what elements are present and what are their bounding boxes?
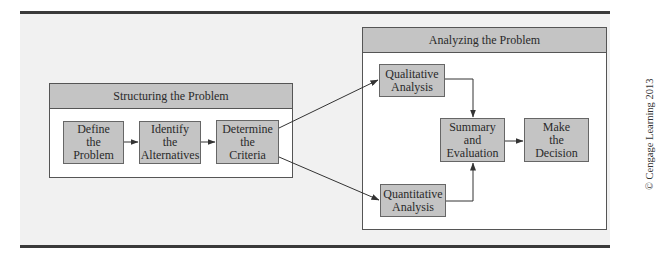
arrow-determine-to-quantitative (279, 157, 379, 200)
arrow-qualitative-to-summary (445, 79, 473, 117)
connector-arrows (0, 0, 660, 266)
copyright-credit: © Cengage Learning 2013 (644, 79, 655, 191)
arrow-quantitative-to-summary (446, 163, 473, 201)
arrow-determine-to-qualitative (279, 80, 378, 128)
